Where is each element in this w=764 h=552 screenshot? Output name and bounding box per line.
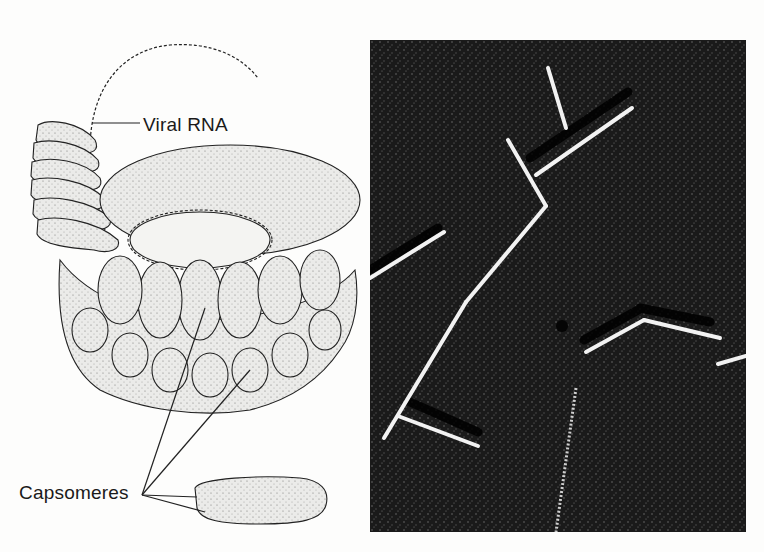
capsid-body	[59, 250, 357, 413]
figure: Viral RNA Capsomeres	[0, 0, 764, 552]
capsomeres-label: Capsomeres	[19, 482, 129, 504]
viral-rna-label: Viral RNA	[143, 114, 228, 136]
capsid-drawing	[0, 0, 370, 552]
virus-structure-illustration: Viral RNA Capsomeres	[0, 0, 370, 552]
dark-particle	[556, 320, 568, 332]
electron-micrograph	[370, 40, 746, 532]
single-capsomere	[195, 477, 327, 524]
micrograph-image	[370, 40, 746, 532]
